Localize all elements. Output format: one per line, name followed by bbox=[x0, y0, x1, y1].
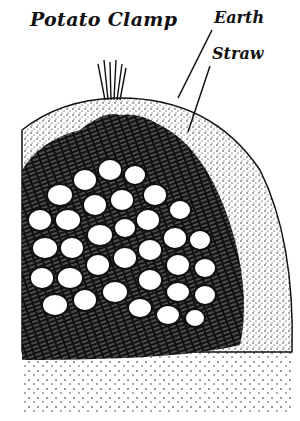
straw-tuft bbox=[98, 60, 126, 100]
straw-label: Straw bbox=[212, 44, 264, 63]
earth-leader-line bbox=[178, 30, 212, 98]
clamp-illustration bbox=[0, 0, 300, 421]
earth-label: Earth bbox=[214, 8, 264, 27]
potato-clamp-diagram: Potato Clamp Earth Straw bbox=[0, 0, 300, 421]
ground-layer bbox=[22, 352, 294, 412]
diagram-title: Potato Clamp bbox=[30, 8, 177, 30]
